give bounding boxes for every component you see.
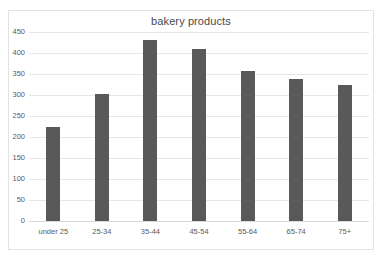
y-axis-tick-label: 400 — [12, 49, 25, 57]
chart-title: bakery products — [9, 15, 373, 27]
y-axis-tick-label: 0 — [21, 217, 25, 225]
bar — [338, 85, 352, 222]
x-axis-tick-label: 75+ — [338, 228, 351, 236]
gridline — [29, 221, 369, 222]
x-axis-tick-label: 25-34 — [92, 228, 111, 236]
y-axis-tick-label: 250 — [12, 112, 25, 120]
y-axis-tick-label: 100 — [12, 175, 25, 183]
y-axis-tick-label: 150 — [12, 154, 25, 162]
x-axis-tick-label: 55-64 — [238, 228, 257, 236]
y-axis-tick-label: 50 — [17, 196, 25, 204]
y-axis-tick-label: 350 — [12, 70, 25, 78]
x-axis-tick-label: 35-44 — [141, 228, 160, 236]
x-axis-tick-label: 65-74 — [287, 228, 306, 236]
plot-area: 050100150200250300350400450under 2525-34… — [29, 32, 369, 221]
bar — [241, 71, 255, 221]
y-axis-tick-label: 200 — [12, 133, 25, 141]
bar — [46, 127, 60, 222]
chart-container: bakery products 050100150200250300350400… — [8, 10, 374, 250]
bar — [95, 94, 109, 221]
gridline — [29, 32, 369, 33]
y-axis-tick-label: 300 — [12, 91, 25, 99]
bar — [143, 40, 157, 221]
x-axis-tick-label: under 25 — [38, 228, 68, 236]
x-axis-tick-label: 45-54 — [189, 228, 208, 236]
bar — [192, 49, 206, 221]
bar — [289, 79, 303, 221]
y-axis-tick-label: 450 — [12, 28, 25, 36]
